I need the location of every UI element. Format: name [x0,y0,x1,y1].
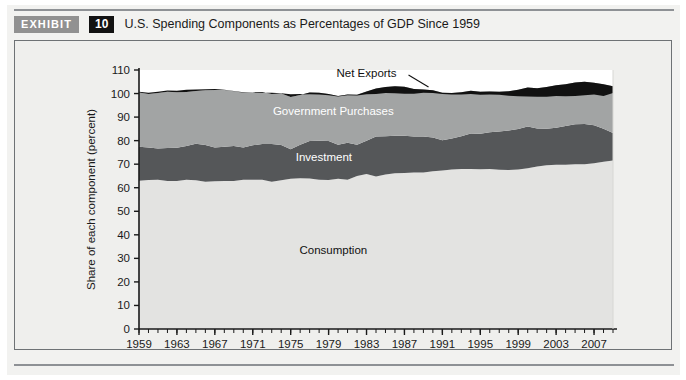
x-tick-label: 1967 [202,338,228,349]
page-edge-right [680,0,686,380]
header-rule [14,9,674,11]
y-tick-label: 20 [117,276,130,288]
x-tick-label: 1975 [278,338,304,349]
y-tick-label: 100 [111,88,130,100]
series-label-investment: Investment [296,151,353,163]
y-tick-label: 60 [117,182,130,194]
x-tick-label: 1983 [354,338,380,349]
x-tick-label: 2003 [543,338,569,349]
y-tick-label: 80 [117,135,130,147]
stacked-area-chart: 0102030405060708090100110195919631967197… [15,41,671,349]
x-tick-label: 1987 [392,338,418,349]
y-tick-label: 90 [117,111,130,123]
area-consumption [139,160,613,329]
x-tick-label: 1991 [430,338,456,349]
exhibit-header: EXHIBIT 10 U.S. Spending Components as P… [14,14,480,34]
series-label-net-exports: Net Exports [336,67,396,79]
y-tick-label: 0 [124,323,130,335]
page-edge-bottom [0,375,686,380]
page-edge-left [0,0,7,380]
x-tick-label: 1995 [467,338,493,349]
y-tick-label: 50 [117,205,130,217]
y-tick-label: 30 [117,252,130,264]
page-background: EXHIBIT 10 U.S. Spending Components as P… [0,0,686,380]
y-tick-label: 110 [112,64,130,76]
y-tick-label: 70 [117,158,130,170]
exhibit-badge-number: 10 [89,16,114,33]
x-tick-label: 1979 [316,338,342,349]
x-tick-label: 1959 [126,338,152,349]
y-tick-label: 10 [117,299,130,311]
y-axis-title: Share of each component (percent) [85,109,97,290]
y-tick-label: 40 [117,229,130,241]
exhibit-badge-label: EXHIBIT [14,16,79,33]
footer-rule [14,364,674,366]
series-label-consumption: Consumption [299,244,367,256]
x-tick-label: 1999 [505,338,531,349]
x-tick-label: 1963 [164,338,190,349]
page-edge-top [0,0,686,5]
exhibit-title: U.S. Spending Components as Percentages … [124,17,480,31]
x-tick-label: 1971 [240,338,266,349]
x-tick-label: 2007 [581,338,607,349]
chart-panel: 0102030405060708090100110195919631967197… [14,40,672,350]
series-label-government-purchases: Government Purchases [273,105,394,117]
